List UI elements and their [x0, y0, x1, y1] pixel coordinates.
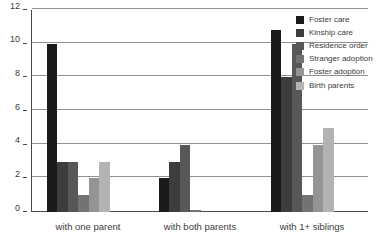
- bar: [281, 77, 292, 212]
- y-tick-mark: [23, 43, 27, 44]
- bar: [57, 162, 68, 213]
- y-tick-mark: [23, 9, 27, 10]
- y-tick-mark: [23, 110, 27, 111]
- legend-item[interactable]: Kinship care: [296, 26, 380, 39]
- bar: [159, 178, 170, 212]
- y-tick-label: 6: [15, 102, 20, 111]
- bar-chart: 024681012 with one parentwith both paren…: [0, 0, 381, 250]
- x-axis-label: with both parents: [164, 221, 236, 232]
- y-tick-label: 4: [15, 136, 20, 145]
- legend-label: Stranger adoption: [309, 55, 373, 63]
- y-tick-label: 8: [15, 68, 20, 77]
- y-tick-label: 2: [15, 169, 20, 178]
- bar: [68, 162, 79, 213]
- y-tick-label: 12: [10, 1, 20, 10]
- legend-label: Birth parents: [309, 82, 354, 90]
- legend-item[interactable]: Foster care: [296, 13, 380, 26]
- y-axis: 024681012: [0, 10, 27, 212]
- bar: [190, 210, 201, 212]
- bar: [323, 128, 334, 212]
- legend-swatch-icon: [296, 16, 304, 24]
- y-tick-label: 0: [15, 203, 20, 212]
- legend-label: Kinship care: [309, 29, 353, 37]
- legend-label: Foster adoption: [309, 68, 365, 76]
- bar: [99, 162, 110, 213]
- legend-item[interactable]: Stranger adoption: [296, 53, 380, 66]
- bar-group: [144, 10, 256, 212]
- y-tick-label: 10: [10, 35, 20, 44]
- legend-swatch-icon: [296, 42, 304, 50]
- y-tick-mark: [23, 76, 27, 77]
- legend-swatch-icon: [296, 68, 304, 76]
- bar: [89, 178, 100, 212]
- legend: Foster careKinship careResidence orderSt…: [296, 13, 380, 92]
- legend-label: Foster care: [309, 16, 349, 24]
- legend-item[interactable]: Birth parents: [296, 79, 380, 92]
- bar: [271, 30, 282, 212]
- y-tick-mark: [23, 211, 27, 212]
- y-tick-mark: [23, 177, 27, 178]
- bar: [78, 195, 89, 212]
- legend-swatch-icon: [296, 82, 304, 90]
- x-axis-labels: with one parentwith both parentswith 1+ …: [32, 214, 368, 234]
- x-axis-label: with one parent: [56, 221, 121, 232]
- bar: [180, 145, 191, 212]
- legend-swatch-icon: [296, 29, 304, 37]
- bar: [169, 162, 180, 213]
- bar: [313, 145, 324, 212]
- legend-label: Residence order: [309, 42, 368, 50]
- x-axis-label: with 1+ siblings: [280, 221, 345, 232]
- legend-item[interactable]: Residence order: [296, 39, 380, 52]
- legend-swatch-icon: [296, 55, 304, 63]
- y-tick-mark: [23, 144, 27, 145]
- bar: [47, 44, 58, 212]
- bar: [302, 195, 313, 212]
- bar-group: [32, 10, 144, 212]
- legend-item[interactable]: Foster adoption: [296, 66, 380, 79]
- gridline-12: [32, 8, 368, 9]
